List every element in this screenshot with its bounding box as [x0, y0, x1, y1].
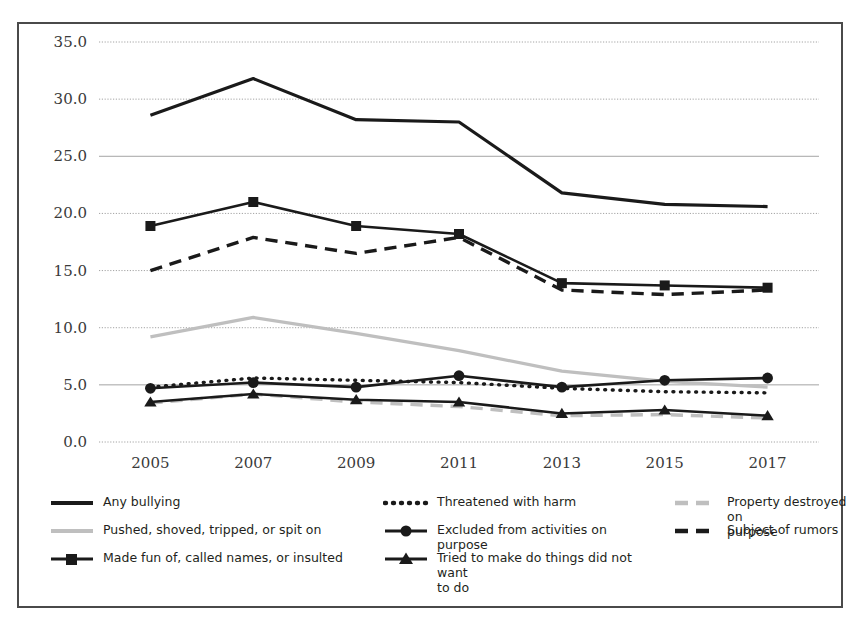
series-marker-circle — [556, 382, 567, 393]
legend-label-tried-to-make-do-things-did-not-want-to-do: Tried to make do things did not want to … — [437, 550, 643, 595]
legend-item-made-fun-of-called-names-or-insulted[interactable]: Made fun of, called names, or insulted — [49, 550, 369, 567]
y-axis-tick-label: 30.0 — [54, 90, 87, 108]
legend-label-subject-of-rumors: Subject of rumors — [727, 522, 838, 537]
series-marker-square — [248, 197, 258, 207]
x-axis-tick-label: 2009 — [337, 454, 375, 472]
series-marker-circle — [145, 383, 156, 394]
chart-figure-frame: 0.05.010.015.020.025.030.035.02005200720… — [17, 22, 843, 608]
series-marker-circle — [351, 382, 362, 393]
legend-item-threatened-with-harm[interactable]: Threatened with harm — [383, 494, 643, 511]
x-axis-tick-label: 2007 — [234, 454, 272, 472]
y-axis-tick-label: 25.0 — [54, 147, 87, 165]
series-marker-circle — [659, 375, 670, 386]
legend-item-tried-to-make-do-things-did-not-want-to-do[interactable]: Tried to make do things did not want to … — [383, 550, 643, 595]
legend-item-any-bullying[interactable]: Any bullying — [49, 494, 369, 511]
plot-area: 0.05.010.015.020.025.030.035.02005200720… — [19, 24, 841, 494]
x-axis-tick-label: 2013 — [543, 454, 581, 472]
x-axis-tick-label: 2015 — [646, 454, 684, 472]
series-line — [150, 202, 767, 288]
legend-label-pushed-shoved-tripped-or-spit-on: Pushed, shoved, tripped, or spit on — [103, 522, 321, 537]
legend-label-excluded-from-activities-on-purpose: Excluded from activities on purpose — [437, 522, 643, 552]
series-any-bullying — [150, 79, 767, 207]
series-line — [150, 79, 767, 207]
legend-swatch-made-fun-of-called-names-or-insulted — [49, 551, 95, 567]
legend-item-pushed-shoved-tripped-or-spit-on[interactable]: Pushed, shoved, tripped, or spit on — [49, 522, 369, 539]
legend-swatch-pushed-shoved-tripped-or-spit-on — [49, 523, 95, 539]
series-made-fun-of-called-names-or-insulted — [145, 197, 772, 293]
chart-legend: Any bullying Pushed, shoved, tripped, or… — [33, 490, 833, 602]
legend-label-any-bullying: Any bullying — [103, 494, 180, 509]
x-axis-tick-label: 2011 — [440, 454, 478, 472]
legend-item-excluded-from-activities-on-purpose[interactable]: Excluded from activities on purpose — [383, 522, 643, 552]
series-marker-circle — [762, 373, 773, 384]
y-axis-tick-label: 20.0 — [54, 204, 87, 222]
legend-label-made-fun-of-called-names-or-insulted: Made fun of, called names, or insulted — [103, 550, 343, 565]
line-chart-svg: 0.05.010.015.020.025.030.035.02005200720… — [19, 24, 841, 494]
y-axis-tick-label: 0.0 — [63, 433, 87, 451]
legend-swatch-excluded-from-activities-on-purpose — [383, 523, 429, 539]
legend-swatch-subject-of-rumors — [673, 523, 719, 539]
x-axis-tick-label: 2017 — [748, 454, 786, 472]
series-marker-circle — [454, 370, 465, 381]
y-axis-tick-label: 15.0 — [54, 262, 87, 280]
legend-swatch-any-bullying — [49, 495, 95, 511]
series-marker-square — [351, 221, 361, 231]
legend-swatch-tried-to-make-do-things-did-not-want-to-do — [383, 551, 429, 567]
x-axis-tick-label: 2005 — [131, 454, 169, 472]
series-marker-circle — [248, 377, 259, 388]
y-axis-tick-label: 35.0 — [54, 33, 87, 51]
y-axis-tick-label: 5.0 — [63, 376, 87, 394]
series-marker-square — [145, 221, 155, 231]
legend-item-subject-of-rumors[interactable]: Subject of rumors — [673, 522, 848, 539]
series-marker-square — [763, 283, 773, 293]
legend-swatch-threatened-with-harm — [383, 495, 429, 511]
series-marker-square — [660, 280, 670, 290]
legend-swatch-property-destroyed-on-purpose — [673, 495, 719, 511]
y-axis-tick-label: 10.0 — [54, 319, 87, 337]
legend-label-threatened-with-harm: Threatened with harm — [437, 494, 576, 509]
